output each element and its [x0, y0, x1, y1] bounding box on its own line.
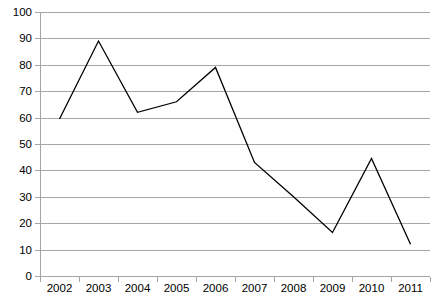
y-axis-tick-label: 10: [19, 244, 32, 256]
y-axis-tick-label: 70: [19, 85, 32, 97]
y-axis-tick-label: 30: [19, 191, 32, 203]
x-axis-tick-label: 2005: [164, 282, 190, 294]
y-axis-tick-label: 0: [26, 270, 32, 282]
x-axis-tick-label: 2003: [86, 282, 112, 294]
y-axis-tick-label: 60: [19, 112, 32, 124]
x-axis-tick-label: 2010: [359, 282, 385, 294]
y-axis-tick-label: 40: [19, 164, 32, 176]
x-axis-tick-label: 2006: [203, 282, 229, 294]
x-axis-tick-label: 2009: [320, 282, 346, 294]
x-axis-tick-label: 2008: [281, 282, 307, 294]
x-axis-tick-label: 2007: [242, 282, 268, 294]
x-axis-tick-label: 2011: [398, 282, 423, 294]
chart-canvas: 0102030405060708090100 20022003200420052…: [0, 0, 447, 305]
chart-background: [0, 0, 447, 305]
line-chart: 0102030405060708090100 20022003200420052…: [0, 0, 447, 305]
y-axis-tick-label: 20: [19, 217, 32, 229]
x-axis-tick-label: 2004: [125, 282, 151, 294]
y-axis-tick-label: 100: [13, 6, 32, 18]
y-axis-tick-label: 80: [19, 59, 32, 71]
y-axis-tick-label: 50: [19, 138, 32, 150]
y-axis-tick-label: 90: [19, 32, 32, 44]
x-axis-tick-label: 2002: [47, 282, 73, 294]
